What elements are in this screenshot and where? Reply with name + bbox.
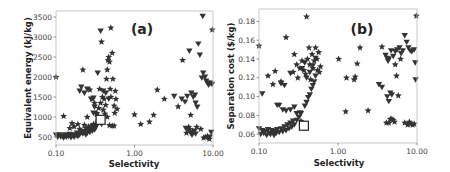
star-marker (103, 75, 110, 82)
triangle-down-marker (97, 29, 103, 34)
scatter-chart-b: 0.060.080.100.120.140.160.18 0.101.0010.… (225, 0, 450, 172)
star-marker (107, 24, 114, 31)
star-marker (265, 72, 272, 79)
chart-panel-a: 500100015002000250030003500 0.101.0010.0… (0, 0, 225, 172)
triangle-down-marker (106, 97, 112, 102)
y-tick-label: 3500 (33, 13, 52, 22)
star-marker (379, 43, 386, 50)
star-marker (294, 74, 301, 81)
x-tick-label: 10.00 (202, 149, 224, 158)
x-tick-label: 10.00 (406, 147, 428, 156)
star-marker (104, 66, 111, 73)
triangle-down-marker (200, 14, 206, 19)
triangle-down-marker (81, 91, 87, 96)
triangle-down-marker (384, 94, 390, 99)
star-marker (60, 113, 67, 120)
star-marker (335, 55, 342, 62)
y-axis-title-b: Separation cost ($/kg) (226, 22, 236, 129)
triangle-down-marker (259, 91, 265, 96)
star-marker (312, 44, 319, 51)
y-tick-label: 2000 (33, 73, 52, 82)
star-marker (109, 49, 116, 56)
star-marker (111, 122, 118, 129)
triangle-down-marker (386, 99, 392, 104)
star-marker (413, 12, 420, 19)
y-tick-label: 0.10 (238, 92, 255, 101)
x-tick-label: 0.10 (251, 147, 268, 156)
triangle-down-marker (307, 70, 313, 75)
plot-area-b (256, 12, 420, 138)
star-marker (392, 61, 399, 68)
triangle-down-marker (184, 94, 190, 99)
star-marker (357, 44, 364, 51)
x-axis-ticks-b: 0.101.0010.00 (251, 143, 428, 156)
star-marker (131, 111, 138, 118)
star-marker (306, 44, 313, 51)
star-marker (146, 118, 153, 125)
chart-panel-b: 0.060.080.100.120.140.160.18 0.101.0010.… (225, 0, 450, 172)
triangle-down-marker (171, 94, 177, 99)
triangle-down-marker (208, 130, 214, 135)
y-tick-label: 1000 (33, 113, 52, 122)
triangle-down-marker (281, 83, 287, 88)
star-marker (175, 103, 182, 110)
star-marker (342, 108, 349, 115)
star-marker (187, 111, 194, 118)
triangle-down-marker (302, 60, 308, 65)
star-marker (393, 72, 400, 79)
star-marker (98, 38, 105, 45)
triangle-down-marker (194, 105, 200, 110)
star-marker (303, 13, 310, 20)
triangle-down-marker (412, 60, 418, 65)
triangle-down-marker (390, 54, 396, 59)
triangle-down-marker (95, 71, 101, 76)
y-tick-label: 0.08 (238, 111, 255, 120)
star-marker (397, 55, 404, 62)
x-tick-label: 1.00 (126, 149, 143, 158)
y-axis-title-a: Equivalent energy (kJ/kg) (23, 17, 33, 139)
triangle-down-marker (403, 40, 409, 45)
triangle-down-marker (385, 58, 391, 63)
triangle-down-marker (308, 87, 314, 92)
star-marker (150, 111, 157, 118)
star-marker (179, 57, 186, 64)
triangle-down-marker (197, 53, 203, 58)
highlight-square-marker (299, 121, 308, 130)
y-tick-label: 2500 (33, 53, 52, 62)
y-tick-label: 3000 (33, 33, 52, 42)
y-tick-label: 1500 (33, 93, 52, 102)
star-marker (272, 68, 279, 75)
star-marker (354, 60, 361, 67)
triangle-down-marker (186, 49, 192, 54)
y-tick-label: 0.12 (238, 73, 255, 82)
panel-label-b: (b) (351, 21, 374, 37)
y-tick-label: 0.14 (238, 55, 255, 64)
star-marker (395, 92, 402, 99)
x-axis-title-b: Selectivity (314, 158, 365, 168)
y-tick-label: 0.06 (238, 130, 255, 139)
star-marker (209, 26, 216, 33)
highlight-square-marker (96, 115, 105, 124)
star-marker (291, 51, 298, 58)
y-tick-label: 0.16 (238, 36, 255, 45)
star-marker (343, 74, 350, 81)
triangle-down-marker (182, 99, 188, 104)
x-tick-label: 0.10 (48, 149, 65, 158)
triangle-down-marker (312, 74, 318, 79)
x-axis-ticks-a: 0.101.0010.00 (48, 145, 224, 158)
triangle-down-marker (379, 85, 385, 90)
triangle-down-marker (412, 77, 418, 82)
panel-label-a: (a) (131, 21, 153, 37)
star-marker (154, 86, 161, 93)
star-marker (109, 75, 116, 82)
triangle-down-marker (303, 75, 309, 80)
y-axis-ticks-a: 500100015002000250030003500 (33, 13, 56, 142)
star-marker (269, 81, 276, 88)
star-marker (283, 34, 290, 41)
star-marker (84, 113, 91, 120)
star-marker (79, 66, 86, 73)
star-marker (365, 107, 372, 114)
y-tick-label: 500 (38, 133, 53, 142)
y-tick-label: 0.18 (238, 17, 255, 26)
triangle-down-marker (195, 41, 201, 46)
